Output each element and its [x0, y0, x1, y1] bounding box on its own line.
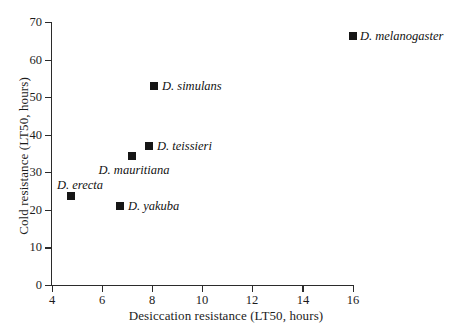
y-tick-50: [45, 97, 51, 98]
point-label-teissieri: D. teissieri: [157, 140, 212, 153]
y-tick-10: [45, 247, 51, 248]
plot-area: 70 60 50 40 30 20 10 0 4 6 8 10 12 14 16…: [0, 0, 452, 330]
x-ticklabel-10: 10: [187, 294, 217, 307]
y-tick-20: [45, 210, 51, 211]
point-label-simulans: D. simulans: [162, 80, 222, 93]
y-tick-0: [45, 285, 51, 286]
x-tick-12: [252, 286, 253, 292]
datapoint-simulans[interactable]: [150, 82, 158, 90]
x-ticklabel-6: 6: [87, 294, 117, 307]
x-ticklabel-8: 8: [137, 294, 167, 307]
point-label-erecta: D. erecta: [57, 179, 103, 192]
datapoint-mauritiana[interactable]: [128, 152, 136, 160]
point-label-yakuba: D. yakuba: [128, 200, 179, 213]
datapoint-melanogaster[interactable]: [349, 32, 357, 40]
x-tick-10: [202, 286, 203, 292]
x-ticklabel-14: 14: [288, 294, 318, 307]
x-ticklabel-12: 12: [237, 294, 267, 307]
y-tick-40: [45, 135, 51, 136]
point-label-mauritiana: D. mauritiana: [99, 164, 170, 177]
x-tick-16: [353, 286, 354, 292]
y-tick-70: [45, 22, 51, 23]
datapoint-erecta[interactable]: [67, 192, 75, 200]
datapoint-yakuba[interactable]: [116, 202, 124, 210]
x-ticklabel-16: 16: [338, 294, 368, 307]
y-tick-60: [45, 60, 51, 61]
y-ticklabel-70: 70: [12, 16, 42, 29]
point-label-melanogaster: D. melanogaster: [360, 30, 443, 43]
y-axis-line: [51, 22, 52, 286]
x-tick-14: [302, 286, 303, 292]
y-ticklabel-0: 0: [12, 279, 42, 292]
y-tick-30: [45, 172, 51, 173]
x-axis-title: Desiccation resistance (LT50, hours): [0, 308, 452, 324]
datapoint-teissieri[interactable]: [145, 142, 153, 150]
scatter-plot-figure: 70 60 50 40 30 20 10 0 4 6 8 10 12 14 16…: [0, 0, 452, 330]
x-tick-6: [102, 286, 103, 292]
x-tick-4: [52, 286, 53, 292]
x-ticklabel-4: 4: [37, 294, 67, 307]
y-axis-title: Cold resistance (LT50, hours): [16, 46, 32, 266]
x-tick-8: [152, 286, 153, 292]
